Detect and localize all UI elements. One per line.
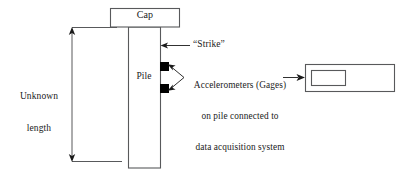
accelerometer-sensor-lower bbox=[160, 84, 169, 93]
unknown-length-dimension bbox=[69, 27, 122, 162]
accelerometer-leader-branch-lower bbox=[172, 78, 184, 88]
pile-shaft-outline bbox=[129, 27, 161, 168]
cap-label: Cap bbox=[110, 9, 180, 20]
data-acquisition-device-screen bbox=[312, 71, 346, 86]
accelerometer-sensor-upper bbox=[160, 62, 169, 71]
strike-label: “Strike” bbox=[193, 39, 225, 50]
accelerometers-label-line-2: on pile connected to bbox=[186, 111, 294, 121]
unknown-length-label-line-2: length bbox=[8, 123, 70, 134]
strike-leader bbox=[161, 42, 191, 48]
pile-testing-diagram: Cap Pile “Strike” Unknown length Acceler… bbox=[0, 0, 405, 179]
unknown-length-label: Unknown length bbox=[8, 70, 70, 155]
accelerometer-leader bbox=[168, 64, 184, 91]
data-acquisition-device bbox=[306, 65, 395, 92]
accelerometers-label: Accelerometers (Gages) on pile connected… bbox=[186, 59, 294, 173]
accelerometers-label-line-3: data acquisition system bbox=[186, 142, 294, 152]
accelerometers-label-line-1: Accelerometers (Gages) bbox=[186, 80, 294, 90]
accelerometer-sensors bbox=[160, 62, 169, 93]
accelerometer-leader-branch-upper bbox=[172, 68, 184, 78]
pile-label: Pile bbox=[128, 71, 160, 82]
unknown-length-label-line-1: Unknown bbox=[8, 91, 70, 102]
pile-shaft bbox=[129, 27, 161, 168]
